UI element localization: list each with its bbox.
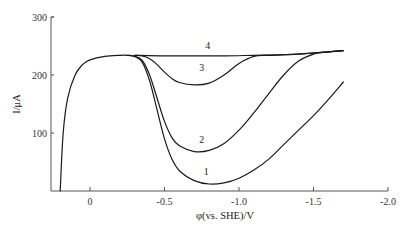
y-axis-title: I/μA — [11, 94, 22, 114]
x-tick-label: -1.5 — [306, 196, 322, 207]
curve-labels: 4321 — [199, 40, 210, 176]
chart: 0-0.5-1.0-1.5-2.0100200300 4321 φ(vs. SH… — [0, 0, 407, 231]
y-tick-label: 200 — [32, 70, 47, 81]
x-axis-title: φ(vs. SHE)/V — [196, 210, 254, 222]
x-tick-label: -1.0 — [231, 196, 247, 207]
curve-label-4: 4 — [205, 40, 210, 51]
x-tick-label: -0.5 — [157, 196, 173, 207]
curve-label-3: 3 — [199, 62, 204, 73]
curve-1 — [60, 55, 343, 191]
tick-marks: 0-0.5-1.0-1.5-2.0100200300 — [32, 12, 396, 208]
axes — [51, 17, 388, 191]
x-tick-label: 0 — [88, 196, 93, 207]
y-tick-label: 300 — [32, 12, 47, 23]
curve-label-2: 2 — [199, 134, 204, 145]
y-tick-label: 100 — [32, 128, 47, 139]
curve-label-1: 1 — [204, 166, 209, 177]
x-tick-label: -2.0 — [380, 196, 396, 207]
